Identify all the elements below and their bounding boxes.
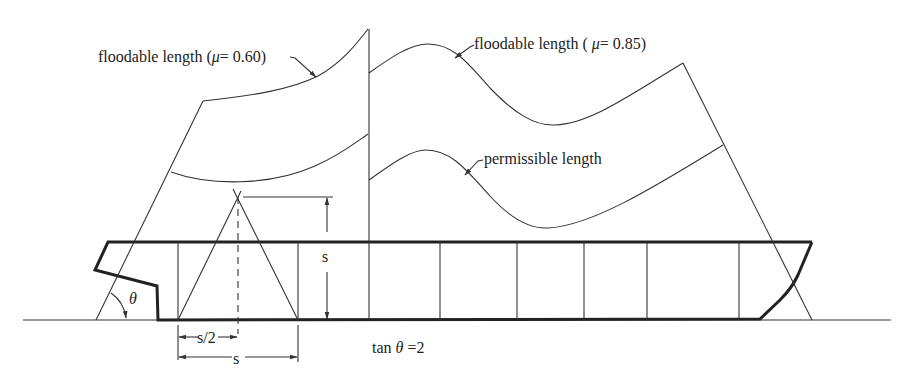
bulkheads bbox=[178, 242, 739, 320]
tan-prefix: tan bbox=[372, 339, 396, 356]
mu-symbol: μ bbox=[211, 48, 220, 66]
permissible-length-curve-left bbox=[171, 134, 368, 182]
leader-floodable-060 bbox=[290, 57, 316, 77]
floodable-060-text: floodable length ( bbox=[98, 48, 212, 66]
floodable-length-085-curve bbox=[369, 44, 683, 125]
ship-hull-outline bbox=[95, 242, 812, 320]
floodable-length-diagram: s s/2 s θ floodable length (μ= 0.60) flo… bbox=[0, 0, 915, 380]
leader-permissible bbox=[465, 160, 483, 175]
s-half-label: s/2 bbox=[197, 329, 216, 346]
s-vertical-label: s bbox=[322, 248, 328, 265]
triangle-left-side bbox=[178, 191, 241, 320]
theta-angle-arc bbox=[111, 293, 126, 318]
tan-value: =2 bbox=[403, 339, 424, 356]
aft-terminal-slant-line bbox=[96, 101, 203, 320]
leader-floodable-085 bbox=[455, 45, 474, 58]
tan-theta-label: tan θ =2 bbox=[372, 339, 424, 356]
s-base-label: s bbox=[233, 350, 239, 367]
floodable-length-060-label: floodable length (μ= 0.60) bbox=[98, 48, 266, 66]
tan-theta-symbol: θ bbox=[396, 339, 404, 356]
mu-symbol: μ bbox=[591, 35, 600, 53]
forward-terminal-slant-line bbox=[683, 63, 812, 320]
floodable-length-085-label: floodable length ( μ= 0.85) bbox=[474, 35, 646, 53]
theta-label: θ bbox=[129, 290, 137, 307]
floodable-length-060-curve bbox=[203, 29, 368, 101]
floodable-085-text: floodable length ( bbox=[474, 35, 592, 53]
permissible-length-label: permissible length bbox=[484, 150, 602, 168]
triangle-right-side bbox=[233, 189, 298, 320]
floodable-085-value: = 0.85) bbox=[600, 35, 646, 53]
floodable-060-value: = 0.60) bbox=[220, 48, 266, 66]
